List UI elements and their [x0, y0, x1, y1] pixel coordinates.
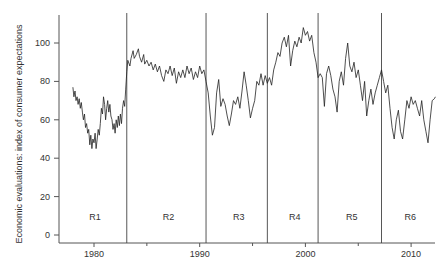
y-tick-label: 40	[40, 153, 50, 163]
y-tick-label: 60	[40, 115, 50, 125]
x-tick-label: 1990	[190, 249, 210, 259]
y-tick-label: 0	[45, 230, 50, 240]
region-label-r5: R5	[346, 212, 358, 222]
chart: Economic evaluations: index of consumer …	[0, 0, 448, 273]
x-tick-label: 2010	[401, 249, 421, 259]
series-line	[73, 28, 436, 149]
y-axis-label: Economic evaluations: index of consumer …	[14, 24, 24, 244]
x-tick-label: 1980	[84, 249, 104, 259]
region-label-r1: R1	[89, 212, 101, 222]
ticks: 0204060801001980199020002010	[35, 38, 421, 259]
region-boundaries	[127, 13, 382, 243]
region-label-r6: R6	[404, 212, 416, 222]
y-tick-label: 100	[35, 38, 50, 48]
x-tick-label: 2000	[295, 249, 315, 259]
region-labels: R1R2R3R4R5R6	[89, 212, 416, 222]
y-tick-label: 80	[40, 76, 50, 86]
region-label-r4: R4	[289, 212, 301, 222]
region-label-r3: R3	[233, 212, 245, 222]
y-tick-label: 20	[40, 192, 50, 202]
region-label-r2: R2	[163, 212, 175, 222]
